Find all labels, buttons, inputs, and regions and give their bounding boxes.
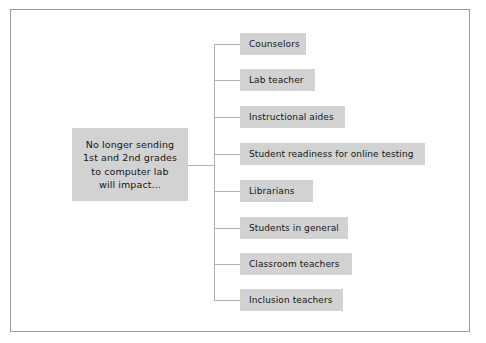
branch-connector-line (214, 300, 240, 301)
branch-connector-line (214, 44, 240, 45)
leaf-node-label: Counselors (249, 39, 300, 50)
branch-connector-line (214, 191, 240, 192)
leaf-node-instructional-aides[interactable]: Instructional aides (240, 106, 345, 128)
branch-connector-line (214, 228, 240, 229)
root-connector-line (188, 165, 214, 166)
leaf-node-student-readiness[interactable]: Student readiness for online testing (240, 143, 425, 165)
leaf-node-label: Student readiness for online testing (249, 149, 414, 160)
branch-connector-line (214, 264, 240, 265)
leaf-node-label: Lab teacher (249, 75, 304, 86)
branch-connector-line (214, 117, 240, 118)
branch-row: Classroom teachers (214, 253, 352, 275)
diagram-canvas: No longer sending 1st and 2nd grades to … (0, 0, 486, 343)
leaf-node-lab-teacher[interactable]: Lab teacher (240, 69, 315, 91)
branch-row: Student readiness for online testing (214, 143, 425, 165)
leaf-node-classroom-teachers[interactable]: Classroom teachers (240, 253, 352, 275)
leaf-node-students-in-general[interactable]: Students in general (240, 217, 348, 239)
branch-row: Instructional aides (214, 106, 345, 128)
branch-connector-line (214, 80, 240, 81)
leaf-node-librarians[interactable]: Librarians (240, 180, 313, 202)
branch-row: Counselors (214, 33, 306, 55)
branch-row: Students in general (214, 217, 348, 239)
branch-connector-line (214, 154, 240, 155)
leaf-node-label: Inclusion teachers (249, 295, 333, 306)
leaf-node-counselors[interactable]: Counselors (240, 33, 306, 55)
leaf-node-label: Students in general (249, 223, 339, 234)
branch-row: Lab teacher (214, 69, 315, 91)
leaf-node-inclusion-teachers[interactable]: Inclusion teachers (240, 289, 343, 311)
branch-row: Librarians (214, 180, 313, 202)
root-node[interactable]: No longer sending 1st and 2nd grades to … (72, 128, 188, 201)
root-node-label: No longer sending 1st and 2nd grades to … (79, 138, 181, 192)
leaf-node-label: Classroom teachers (249, 259, 340, 270)
branch-row: Inclusion teachers (214, 289, 343, 311)
leaf-node-label: Instructional aides (249, 112, 334, 123)
leaf-node-label: Librarians (249, 186, 294, 197)
